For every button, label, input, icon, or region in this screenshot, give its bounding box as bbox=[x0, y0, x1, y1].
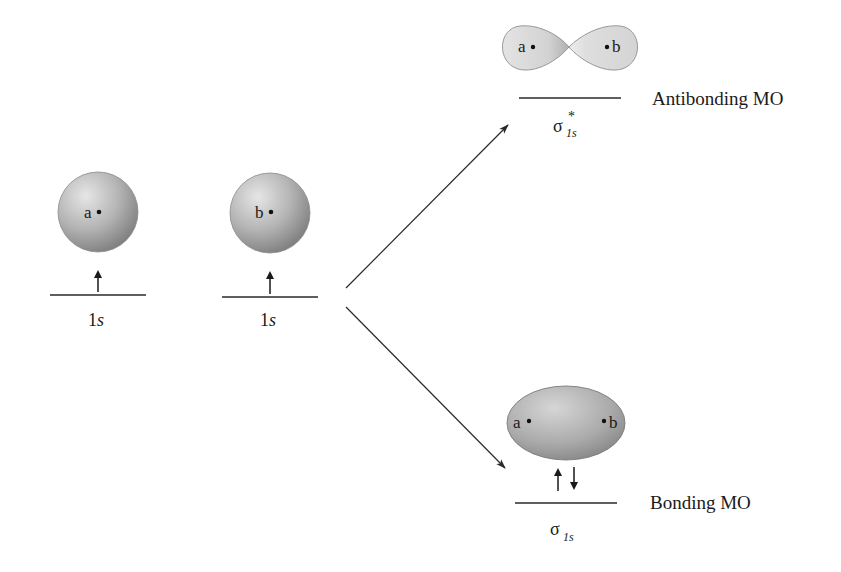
bonding-mo-label: Bonding MO bbox=[650, 492, 751, 513]
arrow-to-bonding bbox=[346, 307, 505, 468]
arrowhead-icon bbox=[570, 482, 578, 490]
antibonding-symbol: σ bbox=[553, 116, 563, 136]
bonding-nucleus-label-b: b bbox=[609, 413, 618, 432]
antibonding-lobe-left bbox=[502, 26, 569, 70]
antibonding-mo-label: Antibonding MO bbox=[652, 88, 783, 109]
antibonding-nucleus-dot-b bbox=[605, 45, 609, 49]
antibonding-lobe-right bbox=[569, 26, 638, 70]
atomic-orbital-a: a 1s bbox=[50, 172, 146, 330]
bonding-nucleus-dot-b bbox=[602, 419, 606, 423]
bonding-symbol: σ bbox=[550, 519, 560, 539]
nucleus-label-a: a bbox=[84, 203, 92, 222]
bonding-nucleus-label-a: a bbox=[513, 413, 521, 432]
mo-diagram: a 1s b 1s a b σ 1s * Antibonding MO a bbox=[0, 0, 841, 572]
antibonding-nucleus-label-a: a bbox=[518, 37, 526, 56]
nucleus-dot-a bbox=[97, 210, 102, 215]
antibonding-nucleus-label-b: b bbox=[612, 37, 621, 56]
antibonding-superscript: * bbox=[568, 109, 575, 124]
arrowhead-icon bbox=[266, 271, 274, 279]
level-label-1s-a: 1s bbox=[88, 310, 104, 330]
bonding-subscript: 1s bbox=[563, 530, 574, 544]
nucleus-dot-b bbox=[269, 210, 274, 215]
antibonding-nucleus-dot-a bbox=[531, 45, 535, 49]
arrow-to-antibonding bbox=[346, 125, 508, 288]
bonding-nucleus-dot-a bbox=[527, 419, 531, 423]
level-label-1s-b: 1s bbox=[260, 310, 276, 330]
nucleus-label-b: b bbox=[255, 203, 264, 222]
arrowhead-icon bbox=[94, 270, 102, 278]
antibonding-mo: a b σ 1s * Antibonding MO bbox=[502, 26, 783, 140]
bonding-mo: a b σ 1s Bonding MO bbox=[507, 386, 751, 544]
antibonding-subscript: 1s bbox=[566, 126, 577, 140]
atomic-orbital-b: b 1s bbox=[222, 173, 318, 330]
bonding-ellipsoid-orbital bbox=[507, 386, 625, 460]
arrowhead-icon bbox=[554, 468, 562, 476]
